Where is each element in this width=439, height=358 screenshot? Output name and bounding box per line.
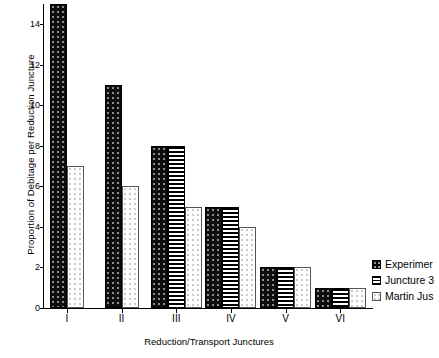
- legend-label: Juncture 3: [385, 274, 434, 286]
- bar-IV-series-2: [239, 227, 256, 308]
- y-axis-tick-mark: [40, 105, 44, 106]
- x-axis-tick-label: III: [172, 313, 180, 324]
- plot-area: 02468101214: [44, 4, 372, 308]
- legend-item: Martin Jus: [372, 288, 439, 304]
- legend-swatch-icon: [372, 276, 381, 285]
- chart-legend: Experimer Juncture 3 Martin Jus: [372, 256, 439, 304]
- x-axis-tick-label: I: [66, 313, 69, 324]
- bar-V-series-2: [294, 267, 311, 308]
- y-axis-tick-label: 14: [30, 19, 40, 29]
- y-axis-tick-mark: [40, 65, 44, 66]
- bar-VI-series-2: [349, 288, 366, 308]
- x-axis-tick-mark: [231, 309, 232, 313]
- bar-VI-series-1: [332, 288, 349, 308]
- x-axis-tick-mark: [176, 309, 177, 313]
- x-axis-title: Reduction/Transport Junctures: [44, 336, 374, 347]
- bar-II-series-2: [122, 186, 139, 308]
- x-axis-tick-label: IV: [226, 313, 235, 324]
- legend-label: Experimer: [385, 258, 433, 270]
- bar-I-series-0: [50, 4, 67, 308]
- bar-chart: Proportion of Debitage per Reduction Jun…: [0, 0, 439, 358]
- x-axis-tick-mark: [286, 309, 287, 313]
- bar-VI-series-0: [315, 288, 332, 308]
- bar-III-series-2: [185, 207, 202, 308]
- x-axis-tick-label: V: [282, 313, 289, 324]
- x-axis-tick-mark: [340, 309, 341, 313]
- y-axis-tick-mark: [40, 227, 44, 228]
- legend-item: Experimer: [372, 256, 439, 272]
- x-axis-tick-mark: [122, 309, 123, 313]
- legend-swatch-icon: [372, 292, 381, 301]
- bar-IV-series-1: [222, 207, 239, 308]
- bar-III-series-0: [151, 146, 168, 308]
- legend-item: Juncture 3: [372, 272, 439, 288]
- legend-label: Martin Jus: [385, 290, 433, 302]
- bar-V-series-0: [260, 267, 277, 308]
- bar-IV-series-0: [205, 207, 222, 308]
- y-axis-tick-label: 12: [30, 60, 40, 70]
- y-axis-tick-mark: [40, 308, 44, 309]
- bar-III-series-1: [168, 146, 185, 308]
- x-axis-tick-mark: [67, 309, 68, 313]
- y-axis-tick-mark: [40, 186, 44, 187]
- y-axis-tick-mark: [40, 24, 44, 25]
- y-axis-tick-mark: [40, 146, 44, 147]
- x-axis-tick-label: II: [119, 313, 125, 324]
- legend-swatch-icon: [372, 260, 381, 269]
- x-axis-line: [43, 308, 373, 309]
- bar-II-series-0: [105, 85, 122, 308]
- bar-I-series-2: [67, 166, 84, 308]
- y-axis-tick-mark: [40, 267, 44, 268]
- y-axis-tick-label: 10: [30, 100, 40, 110]
- x-axis-tick-label: VI: [336, 313, 345, 324]
- bar-V-series-1: [277, 267, 294, 308]
